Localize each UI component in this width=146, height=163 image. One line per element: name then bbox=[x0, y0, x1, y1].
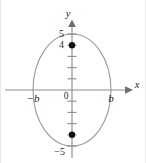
y-axis-label: y bbox=[65, 8, 71, 19]
x-axis-label: x bbox=[134, 79, 140, 90]
x-intercept-label-right: b bbox=[108, 92, 114, 104]
x-intercept-label-left: −b bbox=[27, 92, 40, 104]
x-axis-arrowhead bbox=[125, 86, 133, 94]
y-tick-label-minus-5: −5 bbox=[54, 146, 65, 157]
y-axis-arrowhead bbox=[68, 20, 76, 28]
origin-label: 0 bbox=[64, 91, 69, 101]
data-point-lower bbox=[69, 132, 75, 138]
coordinate-plot-svg: y x 5 4 −5 −b b 0 bbox=[1, 0, 146, 163]
y-tick-label-4: 4 bbox=[59, 39, 64, 50]
data-point-upper bbox=[69, 42, 75, 48]
y-tick-label-5: 5 bbox=[59, 28, 64, 39]
ellipse-graph-figure: y x 5 4 −5 −b b 0 bbox=[0, 0, 146, 163]
